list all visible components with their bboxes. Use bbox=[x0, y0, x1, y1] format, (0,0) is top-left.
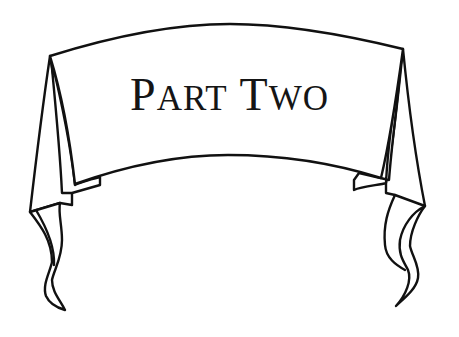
title-word-1: PART bbox=[130, 72, 228, 118]
banner-title: PARTTWO bbox=[0, 72, 459, 118]
ribbon-banner-graphic bbox=[0, 0, 459, 337]
ribbon-banner: PARTTWO bbox=[0, 0, 459, 337]
title-word-2: TWO bbox=[240, 72, 329, 118]
